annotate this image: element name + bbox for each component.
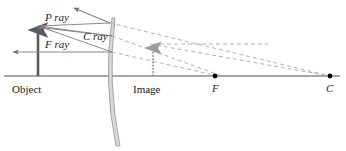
focal-point-label: F [211,82,219,94]
image-label: Image [133,83,161,95]
c-ray-label-text: C ray [83,30,108,42]
dashed-converge-image [150,44,330,76]
ray-diagram-canvas: P ray C ray F ray Object Image F C [0,0,346,151]
f-ray-label-text: F ray [44,38,69,50]
f-ray-label: F ray [44,38,69,50]
object-label: Object [12,83,41,95]
dashed-extension-p [110,23,330,76]
p-ray-label: P ray [44,11,69,23]
p-ray-incident [38,23,110,26]
center-of-curvature-label: C [326,82,334,94]
dashed-extension-f2 [112,52,214,75]
center-of-curvature-dot [328,74,333,79]
c-ray-label: C ray [83,30,108,42]
p-ray-reflected [74,8,110,23]
p-ray-label-text: P ray [44,11,69,23]
focal-point-dot [213,74,218,79]
optics-ray-diagram: P ray C ray F ray Object Image F C [0,0,346,151]
